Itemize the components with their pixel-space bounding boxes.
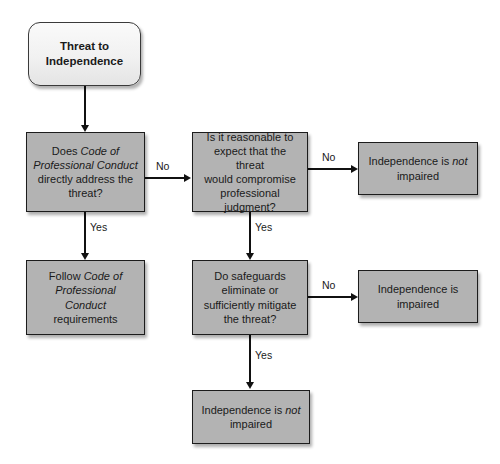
arrowhead-start-to-code [81, 125, 89, 132]
node-label-independence-not-impaired-top: Independence is not impaired [362, 154, 473, 182]
edge-label-no-2: No [322, 151, 335, 163]
connector-reasonable-to-notimpaired [308, 168, 352, 170]
label-segment-plain-1: Follow [49, 270, 84, 282]
arrowhead-safeguards-to-impaired [351, 293, 358, 301]
node-independence-not-impaired-top[interactable]: Independence is not impaired [358, 142, 478, 195]
node-label-follow-code-requirements: Follow Code of Professional Conduct requ… [43, 269, 128, 325]
connector-start-to-code [84, 86, 86, 126]
label-segment-plain-2: requirements [53, 313, 117, 325]
connector-code-to-reasonable [145, 177, 185, 179]
label-segment-italic-1: Code of Professional Conduct [33, 145, 138, 171]
edge-label-no-3: No [322, 279, 335, 291]
node-label-threat-to-independence: Threat to Independence [40, 39, 129, 68]
node-threat-to-independence[interactable]: Threat to Independence [28, 22, 141, 86]
node-label-reasonable-expect: Is it reasonable to expect that the thre… [193, 130, 307, 214]
flowchart-canvas: No Yes No Yes No Yes Threat to Independe… [0, 0, 500, 464]
edge-label-yes-3: Yes [255, 349, 272, 361]
connector-reasonable-to-safeguards [249, 212, 251, 254]
node-label-independence-impaired: Independence is impaired [372, 282, 465, 310]
label-segment-plain-1: Does [52, 145, 81, 157]
node-label-safeguards-mitigate: Do safeguards eliminate or sufficiently … [198, 269, 303, 325]
node-safeguards-mitigate[interactable]: Do safeguards eliminate or sufficiently … [192, 260, 308, 335]
label-segment-plain-2: impaired [397, 170, 439, 182]
label-segment-plain-2: impaired [230, 418, 272, 430]
arrowhead-code-to-follow [81, 253, 89, 260]
node-follow-code-requirements[interactable]: Follow Code of Professional Conduct requ… [26, 260, 145, 335]
edge-label-yes-2: Yes [255, 221, 272, 233]
connector-safeguards-to-impaired [308, 296, 352, 298]
label-segment-italic-not: not [452, 155, 467, 167]
label-segment-italic-not: not [285, 404, 300, 416]
arrowhead-reasonable-to-notimpaired [351, 165, 358, 173]
node-reasonable-expect[interactable]: Is it reasonable to expect that the thre… [192, 132, 308, 212]
node-independence-not-impaired-bottom[interactable]: Independence is not impaired [192, 390, 310, 444]
node-label-code-addresses-threat: Does Code of Professional Conduct direct… [27, 144, 144, 200]
label-segment-plain-1: Independence is [201, 404, 285, 416]
node-independence-impaired[interactable]: Independence is impaired [358, 270, 478, 323]
connector-safeguards-to-notimpaired [249, 335, 251, 383]
label-segment-plain-2: directly address the threat? [38, 173, 133, 199]
connector-code-to-follow [84, 212, 86, 254]
edge-label-no-1: No [156, 160, 169, 172]
node-label-independence-not-impaired-bottom: Independence is not impaired [195, 403, 306, 431]
arrowhead-code-to-reasonable [184, 174, 191, 182]
label-segment-plain-1: Independence is [368, 155, 452, 167]
edge-label-yes-1: Yes [90, 221, 107, 233]
arrowhead-safeguards-to-notimpaired [246, 382, 254, 389]
arrowhead-reasonable-to-safeguards [246, 253, 254, 260]
node-code-addresses-threat[interactable]: Does Code of Professional Conduct direct… [26, 132, 145, 212]
